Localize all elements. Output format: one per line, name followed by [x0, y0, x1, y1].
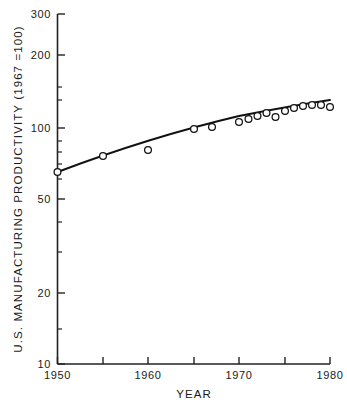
- data-point-1950: [54, 169, 61, 176]
- data-point-1980: [327, 104, 334, 111]
- data-point-1975: [282, 108, 289, 115]
- y-tick-label-50: 50: [38, 193, 51, 205]
- data-point-1977: [300, 103, 307, 110]
- data-point-1970: [236, 119, 243, 126]
- y-axis-title: U.S. MANUFACTURING PRODUCTIVITY (1967 =1…: [12, 25, 24, 352]
- y-major-ticks: [58, 14, 66, 364]
- data-point-1978: [309, 102, 316, 109]
- y-tick-label-100: 100: [31, 122, 51, 134]
- data-point-1979: [318, 102, 325, 109]
- x-tick-label-1950: 1950: [44, 369, 71, 381]
- x-axis-title: YEAR: [176, 388, 212, 400]
- x-ticks: [58, 357, 331, 364]
- data-point-1960: [145, 147, 152, 154]
- data-point-1955: [100, 153, 107, 160]
- data-point-1967: [209, 124, 216, 131]
- y-tick-label-20: 20: [38, 287, 51, 299]
- data-point-1965: [191, 126, 198, 133]
- y-tick-label-200: 200: [31, 49, 51, 61]
- data-point-1972: [254, 113, 261, 120]
- data-point-markers: [54, 102, 333, 176]
- productivity-log-chart: 300 200 100 50 20 10 1950 1960 1970 1980…: [0, 0, 347, 407]
- x-tick-label-1980: 1980: [317, 369, 344, 381]
- data-point-1973: [263, 110, 270, 117]
- figure-panel: 300 200 100 50 20 10 1950 1960 1970 1980…: [0, 0, 347, 407]
- data-point-1971: [245, 116, 252, 123]
- data-point-1976: [291, 105, 298, 112]
- x-tick-label-1970: 1970: [226, 369, 253, 381]
- trend-line: [58, 100, 331, 172]
- x-tick-label-1960: 1960: [135, 369, 162, 381]
- y-tick-label-300: 300: [31, 8, 51, 20]
- data-point-1974: [272, 114, 279, 121]
